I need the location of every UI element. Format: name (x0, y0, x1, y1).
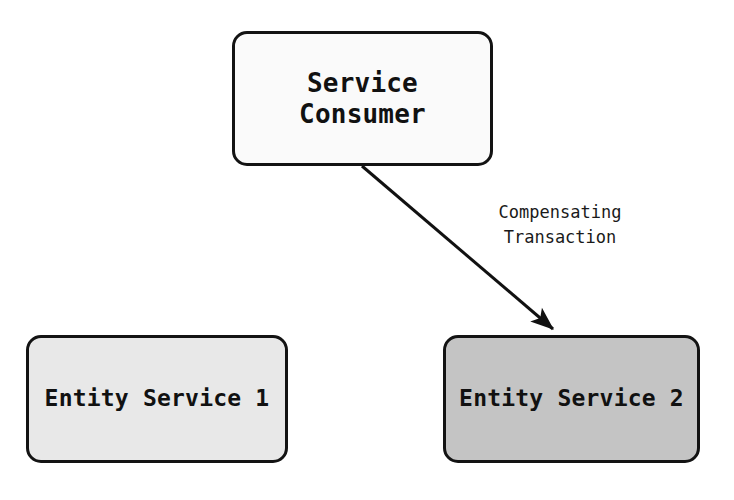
node-service-consumer-label: Service Consumer (299, 68, 426, 129)
node-entity-service-2-label: Entity Service 2 (459, 385, 684, 412)
diagram-canvas: Service Consumer Entity Service 1 Entity… (0, 0, 734, 500)
node-entity-service-1-label: Entity Service 1 (45, 385, 270, 412)
compensating-transaction-label: Compensating Transaction (462, 200, 658, 249)
node-entity-service-1[interactable]: Entity Service 1 (26, 335, 288, 463)
node-entity-service-2[interactable]: Entity Service 2 (443, 335, 700, 463)
node-service-consumer[interactable]: Service Consumer (232, 31, 493, 166)
